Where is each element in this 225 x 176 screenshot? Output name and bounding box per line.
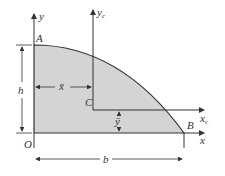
- xbar-label: x̄: [58, 80, 64, 92]
- point-a-label: A: [35, 32, 43, 44]
- y-axis-label: y: [38, 10, 44, 22]
- point-b-label: B: [187, 119, 194, 131]
- x-axis-label: x: [199, 134, 205, 146]
- base-label: b: [103, 153, 109, 165]
- height-label: h: [18, 84, 24, 96]
- centroid-c-label: C: [85, 96, 93, 108]
- centroid-diagram: y yc A B O C h b x̄ ȳ x xc: [0, 0, 225, 176]
- point-o-label: O: [24, 138, 32, 150]
- shaded-region: [34, 45, 184, 133]
- yc-axis-label: yc: [96, 6, 106, 20]
- xc-axis-label: xc: [199, 112, 209, 126]
